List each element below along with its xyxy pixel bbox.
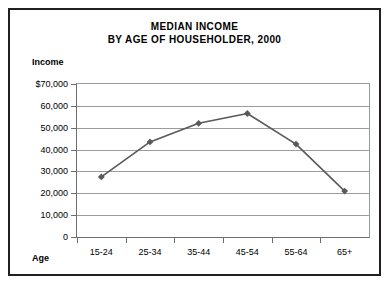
y-axis-tick (71, 128, 76, 129)
y-axis-tick (71, 106, 76, 107)
x-axis-tick-label: 65+ (337, 247, 352, 257)
y-axis-tick (71, 193, 76, 194)
chart-title-line-2: BY AGE OF HOUSEHOLDER, 2000 (10, 34, 379, 47)
y-axis-tick-label: 10,000 (40, 210, 68, 220)
chart-figure: MEDIAN INCOME BY AGE OF HOUSEHOLDER, 200… (8, 8, 381, 276)
x-axis-tick (126, 238, 127, 243)
y-axis-title: Income (32, 57, 64, 67)
y-axis-tick-label: $70,000 (35, 79, 68, 89)
y-axis-tick-label: 30,000 (40, 166, 68, 176)
y-axis-tick-label: 0 (63, 232, 68, 242)
series-line (101, 114, 344, 192)
y-axis-tick-label: 40,000 (40, 145, 68, 155)
x-axis-tick (272, 238, 273, 243)
chart-title-line-1: MEDIAN INCOME (10, 21, 379, 34)
x-axis-title: Age (32, 253, 49, 263)
y-axis-tick (71, 84, 76, 85)
y-axis-tick-label: 50,000 (40, 123, 68, 133)
x-axis-tick (77, 238, 78, 243)
chart-title: MEDIAN INCOME BY AGE OF HOUSEHOLDER, 200… (10, 21, 379, 46)
x-axis-tick-label: 25-34 (138, 247, 161, 257)
data-point-marker (195, 120, 202, 127)
y-axis-tick-labels: $70,00060,00050,00040,00030,00020,00010,… (10, 83, 68, 237)
x-axis-tick (223, 238, 224, 243)
y-axis-tick (71, 171, 76, 172)
x-axis-tick-label: 55-64 (284, 247, 307, 257)
x-axis-tick (320, 238, 321, 243)
x-axis-tick-label: 35-44 (187, 247, 210, 257)
x-axis-tick (174, 238, 175, 243)
y-axis-tick (71, 150, 76, 151)
y-axis-tick-label: 60,000 (40, 101, 68, 111)
x-axis-tick-label: 45-54 (236, 247, 259, 257)
data-series (77, 84, 369, 237)
y-axis-tick-label: 20,000 (40, 188, 68, 198)
y-axis-tick (71, 237, 76, 238)
y-axis-tick (71, 215, 76, 216)
plot-area: 15-2425-3435-4445-5455-6465+ (76, 83, 370, 238)
x-axis-tick-label: 15-24 (90, 247, 113, 257)
